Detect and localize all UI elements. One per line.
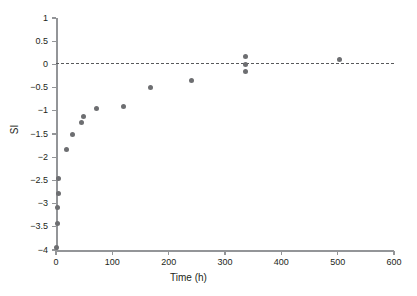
data-point [94, 106, 99, 111]
x-axis-tick-label: 0 [36, 258, 76, 267]
data-point [189, 78, 194, 83]
data-point [243, 54, 248, 59]
x-axis-tick [224, 251, 225, 255]
y-axis-tick-label: −3.5 [14, 222, 48, 231]
y-axis-tick [52, 226, 56, 227]
x-axis-tick [168, 251, 169, 255]
y-axis-tick-label: −3 [14, 199, 48, 208]
data-point [243, 62, 248, 67]
x-axis-tick-label: 400 [261, 258, 301, 267]
y-axis-tick-label: −2.5 [14, 176, 48, 185]
y-axis-tick [52, 64, 56, 65]
data-point [79, 120, 84, 125]
y-axis-tick-label: 1 [14, 14, 48, 23]
x-axis-tick [337, 251, 338, 255]
scatter-chart: 10.50−0.5−1−1.5−2−2.5−3−3.5−4 0100200300… [0, 0, 417, 296]
x-axis-tick-label: 500 [318, 258, 358, 267]
x-axis-tick [55, 251, 56, 255]
x-axis-tick-label: 600 [374, 258, 414, 267]
x-axis-title: Time (h) [170, 272, 207, 283]
data-point [55, 221, 60, 226]
x-axis-tick [281, 251, 282, 255]
y-axis-title: SI [9, 110, 20, 150]
data-point [121, 104, 126, 109]
x-axis-tick [393, 251, 394, 255]
data-point [337, 57, 342, 62]
data-point [55, 205, 60, 210]
data-point [70, 132, 75, 137]
y-axis-tick [52, 203, 56, 204]
data-point [64, 147, 69, 152]
data-point [148, 85, 153, 90]
y-axis-tick [52, 17, 56, 18]
y-axis-tick-label: −4 [14, 246, 48, 255]
y-axis-tick [52, 41, 56, 42]
x-axis-tick-label: 200 [149, 258, 189, 267]
data-point [56, 176, 61, 181]
y-axis-tick-label: 0.5 [14, 37, 48, 46]
y-axis-tick [52, 110, 56, 111]
zero-reference-line [56, 63, 394, 64]
y-axis-tick-label: 0 [14, 60, 48, 69]
y-axis-tick-label: −0.5 [14, 83, 48, 92]
y-axis-tick [52, 157, 56, 158]
y-axis-line [56, 18, 58, 251]
data-point [243, 69, 248, 74]
x-axis-tick-label: 300 [205, 258, 245, 267]
data-point [56, 191, 61, 196]
y-axis-tick [52, 133, 56, 134]
x-axis-tick [112, 251, 113, 255]
x-axis-tick-label: 100 [92, 258, 132, 267]
y-axis-tick-label: −2 [14, 153, 48, 162]
y-axis-tick [52, 87, 56, 88]
data-point [81, 114, 86, 119]
y-axis-tick [52, 180, 56, 181]
